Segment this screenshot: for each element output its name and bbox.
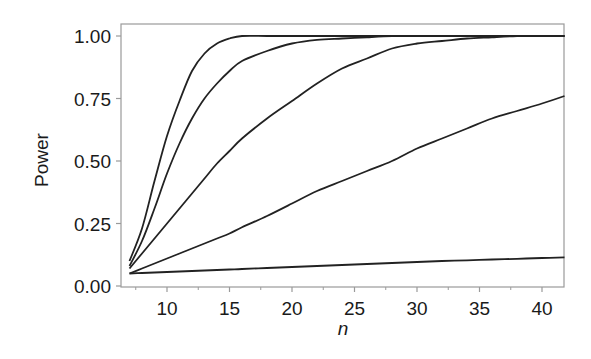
y-tick-label: 0.75: [74, 89, 111, 110]
x-tick-label: 40: [531, 298, 552, 319]
plot-area-border: [121, 24, 564, 287]
y-tick-label: 0.50: [74, 151, 111, 172]
x-tick-label: 10: [156, 298, 177, 319]
plot-frame: [121, 24, 564, 287]
x-axis-title: n: [338, 318, 349, 339]
x-axis: 10152025303540: [136, 287, 553, 319]
x-tick-label: 30: [406, 298, 427, 319]
power-chart: 0.000.250.500.751.00 10152025303540 Powe…: [0, 0, 591, 359]
x-tick-label: 35: [469, 298, 490, 319]
y-axis: 0.000.250.500.751.00: [74, 26, 121, 297]
x-tick-label: 20: [281, 298, 302, 319]
x-tick-label: 25: [344, 298, 365, 319]
y-axis-title: Power: [31, 132, 52, 187]
x-tick-label: 15: [219, 298, 240, 319]
y-tick-label: 0.25: [74, 214, 111, 235]
y-tick-label: 0.00: [74, 276, 111, 297]
y-tick-label: 1.00: [74, 26, 111, 47]
